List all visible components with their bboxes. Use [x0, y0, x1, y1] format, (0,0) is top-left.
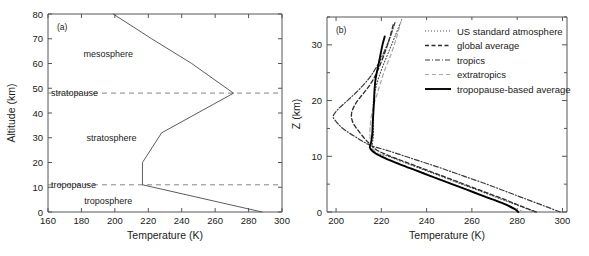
panel-a-y-tick-label: 50 — [32, 83, 43, 94]
panel-b-tag: (b) — [336, 25, 347, 35]
atmospheric-temperature-profile-figure: 160180200220240260280300 010203040506070… — [0, 0, 589, 256]
legend-label: tropopause-based average — [457, 84, 571, 95]
panel-a-y-tick-label: 60 — [32, 58, 43, 69]
panel-a-pause-lines — [48, 93, 282, 185]
stratopause-label: stratopause — [51, 88, 98, 98]
panel-b-x-axis-title: Temperature (K) — [409, 229, 485, 241]
panel-b-y-tick-label: 10 — [311, 151, 322, 162]
panel-a-x-axis-title: Temperature (K) — [127, 229, 203, 241]
panel-b-profile-comparison: 200220240260280300 0102030 (b) US standa… — [290, 0, 589, 256]
panel-a-y-tick-label: 30 — [32, 132, 43, 143]
region-label-troposphere: troposphere — [84, 196, 132, 206]
panel-b-legend: US standard atmosphereglobal averagetrop… — [419, 20, 571, 99]
panel-a-y-tick-label: 0 — [38, 207, 43, 218]
panel-a-y-tick-label: 20 — [32, 157, 43, 168]
panel-a-y-tick-label: 10 — [32, 182, 43, 193]
legend-label: tropics — [457, 55, 485, 66]
panel-a-standard-atmosphere: 160180200220240260280300 010203040506070… — [0, 0, 300, 256]
panel-a-y-axis-title: Altitude (km) — [5, 84, 17, 143]
region-label-mesosphere: mesosphere — [83, 49, 133, 59]
panel-a-x-tick-label: 300 — [274, 215, 290, 226]
panel-a-y-tick-label: 80 — [32, 9, 43, 20]
panel-b-y-axis-title: Z (km) — [290, 99, 302, 129]
region-label-stratosphere: stratosphere — [86, 133, 136, 143]
panel-b-x-tick-label: 220 — [373, 215, 389, 226]
panel-b-y-tick-label: 0 — [317, 207, 322, 218]
panel-a-tag: (a) — [57, 22, 68, 32]
panel-b-x-tick-label: 200 — [328, 215, 344, 226]
panel-a-x-tick-label: 240 — [174, 215, 190, 226]
legend-label: extratropics — [457, 69, 506, 80]
panel-b-x-tick-label: 300 — [555, 215, 571, 226]
tropopause-label: tropopause — [51, 180, 96, 190]
panel-b-x-tick-label: 240 — [419, 215, 435, 226]
panel-a-x-ticks: 160180200220240260280300 — [40, 14, 290, 226]
panel-b-y-tick-label: 30 — [311, 39, 322, 50]
panel-b-x-tick-label: 280 — [509, 215, 525, 226]
panel-a-y-tick-label: 70 — [32, 33, 43, 44]
panel-a-x-tick-label: 260 — [207, 215, 223, 226]
panel-a-svg: 160180200220240260280300 010203040506070… — [0, 0, 300, 256]
us-standard-profile-curve — [113, 14, 262, 212]
panel-a-x-tick-label: 200 — [107, 215, 123, 226]
panel-a-y-tick-label: 40 — [32, 108, 43, 119]
panel-b-y-tick-label: 20 — [311, 95, 322, 106]
panel-a-x-tick-label: 280 — [241, 215, 257, 226]
panel-b-x-tick-label: 260 — [464, 215, 480, 226]
legend-label: global average — [457, 40, 519, 51]
panel-a-x-tick-label: 180 — [73, 215, 89, 226]
panel-b-svg: 200220240260280300 0102030 (b) US standa… — [290, 0, 589, 256]
panel-a-x-tick-label: 220 — [140, 215, 156, 226]
legend-label: US standard atmosphere — [457, 26, 563, 37]
